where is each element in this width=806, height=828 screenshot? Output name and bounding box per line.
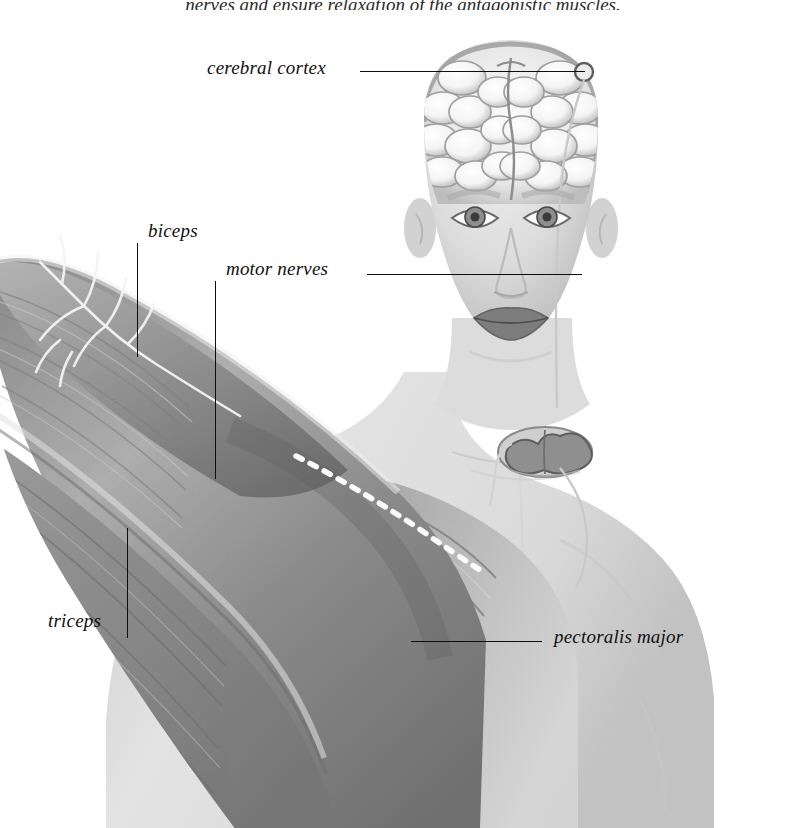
leader-triceps	[127, 528, 128, 638]
leader-cerebral-cortex	[360, 71, 585, 72]
label-triceps: triceps	[48, 610, 101, 632]
label-biceps: biceps	[148, 220, 198, 242]
motor-cortex-node	[575, 63, 593, 81]
leader-motor-nerves	[367, 274, 582, 275]
leader-pectoralis-major	[411, 641, 542, 642]
leader-motor-nerves-vertical	[215, 281, 216, 479]
leader-biceps	[137, 243, 138, 357]
upper-arm	[0, 258, 486, 828]
illustration-page: nerves and ensure relaxation of the anta…	[0, 0, 806, 828]
anatomy-artwork	[0, 0, 806, 828]
label-pectoralis-major: pectoralis major	[554, 626, 683, 648]
label-cerebral-cortex: cerebral cortex	[207, 57, 326, 79]
label-motor-nerves: motor nerves	[226, 258, 328, 280]
